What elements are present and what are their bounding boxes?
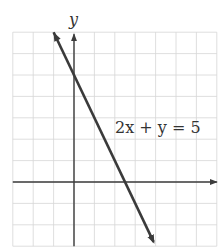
grid-lines xyxy=(13,32,217,246)
line-series xyxy=(54,32,154,242)
graph-line xyxy=(54,32,154,242)
arrowhead-icon xyxy=(54,32,61,42)
equation-label: 2x + y = 5 xyxy=(115,118,201,137)
coordinate-plane: y 2x + y = 5 xyxy=(0,0,222,251)
y-axis-label: y xyxy=(68,10,79,29)
